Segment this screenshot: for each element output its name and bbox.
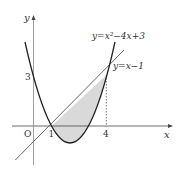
y-tick-3: 3 bbox=[25, 72, 31, 82]
shaded-region bbox=[52, 75, 107, 143]
x-axis-label: x bbox=[164, 129, 170, 140]
origin-label: O bbox=[24, 129, 31, 139]
x-tick-4: 4 bbox=[103, 129, 109, 139]
x-tick-1: 1 bbox=[49, 129, 55, 139]
line-label: y=x−1 bbox=[112, 61, 144, 71]
x-axis-arrow-icon bbox=[168, 124, 173, 128]
parabola-label: y=x²−4x+3 bbox=[91, 31, 145, 41]
y-axis-label: y bbox=[23, 12, 30, 23]
y-axis-arrow-icon bbox=[32, 15, 36, 20]
graph-figure: y x O 1 4 3 y=x²−4x+3 y=x−1 bbox=[0, 0, 180, 171]
